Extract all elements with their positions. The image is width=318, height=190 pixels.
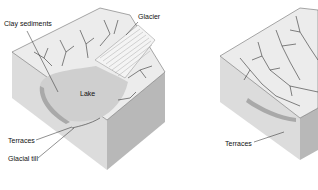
label-terraces-left: Terraces — [8, 137, 35, 144]
left-block — [12, 8, 165, 170]
label-glacier: Glacier — [138, 13, 160, 20]
label-clay-sediments: Clay sediments — [4, 20, 52, 27]
diagram-canvas — [0, 0, 318, 190]
label-lake: Lake — [80, 90, 95, 97]
right-block — [220, 8, 318, 160]
label-terraces-right: Terraces — [225, 140, 252, 147]
label-glacial-till: Glacial till — [8, 155, 38, 162]
